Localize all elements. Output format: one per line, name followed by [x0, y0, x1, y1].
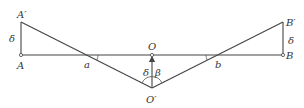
label-o: O: [148, 41, 156, 52]
label-a-prime: A′: [16, 9, 27, 20]
label-delta-left: δ: [9, 33, 15, 44]
label-a: A: [16, 60, 24, 71]
angle-arc-a: [97, 55, 98, 60]
label-b: B: [285, 50, 293, 61]
label-point-b-lower: b: [215, 59, 221, 70]
label-o-prime: O′: [146, 94, 157, 105]
label-beta: β: [154, 67, 161, 78]
label-b-prime: B′: [285, 17, 296, 28]
angle-arc-b: [206, 55, 207, 60]
label-point-a-lower: a: [84, 59, 90, 70]
label-delta-center: δ: [143, 67, 149, 78]
point-b-marker: [281, 53, 284, 56]
point-o-marker: [150, 53, 153, 56]
geometry-diagram: A′ δ A B′ δ B O O′ a b δ β: [0, 0, 304, 108]
label-delta-right: δ: [288, 35, 294, 46]
point-a-marker: [19, 53, 22, 56]
